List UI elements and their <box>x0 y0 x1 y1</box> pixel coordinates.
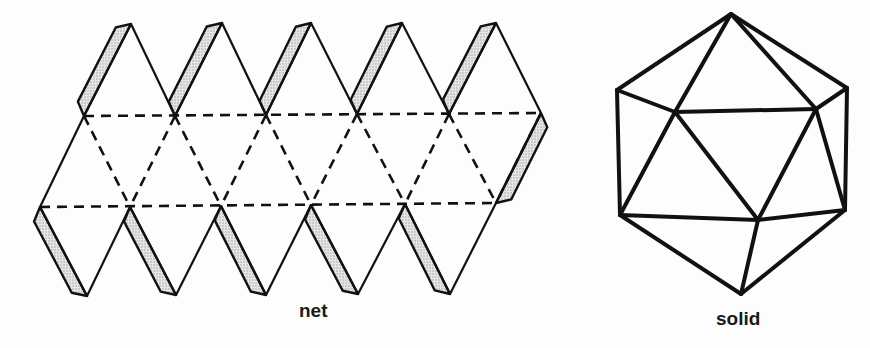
solid-edge <box>816 109 845 210</box>
solid-edge <box>617 90 620 215</box>
icosahedron-solid <box>0 0 870 348</box>
solid-edge <box>620 112 675 215</box>
solid-edge <box>617 90 675 112</box>
solid-edge <box>845 88 847 210</box>
solid-edge <box>620 215 741 294</box>
icosahedron-figure: net solid <box>0 0 870 348</box>
net-label: net <box>299 300 328 322</box>
solid-edge <box>675 109 816 112</box>
solid-edge <box>816 88 847 109</box>
solid-edge <box>758 109 816 220</box>
solid-edge <box>675 14 731 112</box>
solid-edge <box>620 215 758 220</box>
solid-edge <box>617 14 731 90</box>
solid-edge <box>675 112 758 220</box>
solid-label: solid <box>716 308 760 330</box>
